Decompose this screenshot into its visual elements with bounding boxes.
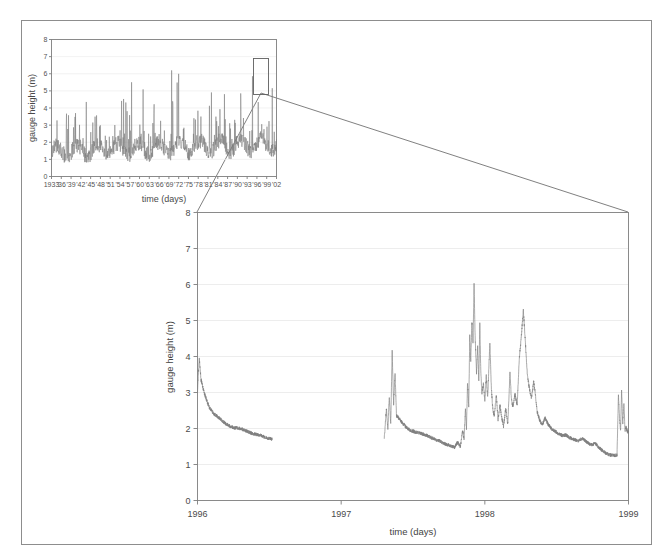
zoom-connector-lines (197, 93, 628, 212)
main-chart: 012345678 1996199719981999 gauge height … (164, 208, 639, 537)
main-xtick-label: 1996 (187, 509, 207, 519)
inset-ytick-label: 1 (44, 156, 48, 163)
inset-xtick-label: '54 (115, 181, 124, 188)
inset-ytick-label: 4 (44, 105, 48, 112)
inset-xtick-label: '02 (272, 181, 281, 188)
main-ytick-label: 5 (185, 316, 190, 326)
inset-xlabel: time (days) (142, 194, 187, 204)
main-ytick-label: 7 (185, 244, 190, 254)
inset-xtick-label: '75 (184, 181, 193, 188)
inset-xtick-label: '42 (76, 181, 85, 188)
inset-xtick-label: '72 (174, 181, 183, 188)
inset-xtick-label: '84 (213, 181, 222, 188)
inset-ytick-label: 6 (44, 70, 48, 77)
inset-ytick-label: 2 (44, 139, 48, 146)
inset-xtick-label: '48 (96, 181, 105, 188)
main-xlabel: time (days) (390, 526, 437, 537)
inset-xtick-label: '96 (252, 181, 261, 188)
inset-xtick-label: '45 (86, 181, 95, 188)
main-ytick-label: 2 (185, 424, 190, 434)
figure-panel: 012345678 1933'36'39'42'45'48'51'54'57'6… (0, 0, 669, 556)
inset-xtick-label: '63 (145, 181, 154, 188)
inset-ytick-label: 7 (44, 53, 48, 60)
inset-chart: 012345678 1933'36'39'42'45'48'51'54'57'6… (27, 36, 281, 204)
inset-xtick-label: '36 (57, 181, 66, 188)
zoom-region-box[interactable] (254, 59, 269, 95)
inset-ytick-label: 3 (44, 122, 48, 129)
inset-series-line (52, 70, 277, 162)
main-xtick-label: 1998 (475, 509, 495, 519)
inset-ytick-label: 5 (44, 87, 48, 94)
inset-xtick-label: '99 (262, 181, 271, 188)
inset-ylabel: gauge height (m) (27, 74, 37, 142)
inset-xtick-label: '69 (164, 181, 173, 188)
main-ylabel: gauge height (m) (164, 321, 175, 393)
inset-xtick-label: '39 (67, 181, 76, 188)
main-ytick-label: 8 (185, 208, 190, 218)
inset-xtick-label: '51 (106, 181, 115, 188)
main-series-line-segment-2 (384, 283, 628, 457)
main-ytick-label: 6 (185, 280, 190, 290)
inset-xtick-label: '90 (233, 181, 242, 188)
figure-svg: 012345678 1933'36'39'42'45'48'51'54'57'6… (0, 0, 669, 556)
inset-xtick-label: '87 (223, 181, 232, 188)
main-xticks: 1996199719981999 (187, 501, 638, 519)
inset-ytick-label: 8 (44, 36, 48, 43)
inset-yticks: 012345678 (44, 36, 52, 180)
main-yticks: 012345678 (185, 208, 197, 506)
main-xtick-label: 1997 (331, 509, 351, 519)
inset-xtick-label: '57 (125, 181, 134, 188)
main-ytick-label: 3 (185, 388, 190, 398)
main-xtick-label: 1999 (618, 509, 638, 519)
main-ytick-label: 1 (185, 460, 190, 470)
main-ytick-label: 0 (185, 496, 190, 506)
inset-xtick-label: '60 (135, 181, 144, 188)
inset-xticks: 1933'36'39'42'45'48'51'54'57'60'63'66'69… (44, 177, 281, 188)
inset-ytick-label: 0 (44, 173, 48, 180)
main-ytick-label: 4 (185, 352, 190, 362)
inset-xtick-label: '81 (203, 181, 212, 188)
inset-xtick-label: '93 (243, 181, 252, 188)
inset-xtick-label: '66 (155, 181, 164, 188)
inset-xtick-label: '78 (194, 181, 203, 188)
